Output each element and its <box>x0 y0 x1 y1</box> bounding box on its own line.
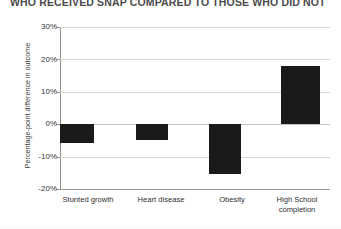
y-tick-label-10: 10% <box>11 88 57 96</box>
gridline-zero <box>60 124 330 125</box>
scan-bottom-edge <box>0 227 341 229</box>
chart-title: WHO RECEIVED SNAP COMPARED TO THOSE WHO … <box>10 0 341 8</box>
y-tick-label-neg10: -10% <box>11 153 57 161</box>
x-label-heart-disease: Heart disease <box>126 195 196 205</box>
x-label-obesity: Obesity <box>199 195 265 205</box>
y-tick-label-neg20: -20% <box>11 185 57 193</box>
bar-high-school-completion <box>281 66 320 124</box>
bar-obesity <box>209 124 241 174</box>
gridline-20 <box>60 59 330 60</box>
bar-heart-disease <box>136 124 168 140</box>
plot-area <box>60 27 330 189</box>
y-tick-label-30: 30% <box>11 23 57 31</box>
y-tick-label-0: 0% <box>11 120 57 128</box>
x-label-high-school-completion: High School completion <box>262 195 332 214</box>
gridline-30 <box>60 27 330 28</box>
bar-stunted-growth <box>60 124 94 143</box>
gridline-neg10 <box>60 157 330 158</box>
gridline-neg20-baseline <box>60 189 330 190</box>
x-label-high-school-line1: High School <box>277 195 318 204</box>
y-axis-title: Percentage-point difference in outcome <box>23 26 32 186</box>
x-label-stunted-growth: Stunted growth <box>52 195 124 205</box>
x-label-high-school-line2: completion <box>279 205 316 214</box>
y-tick-label-20: 20% <box>11 56 57 64</box>
bar-chart: WHO RECEIVED SNAP COMPARED TO THOSE WHO … <box>0 0 341 229</box>
